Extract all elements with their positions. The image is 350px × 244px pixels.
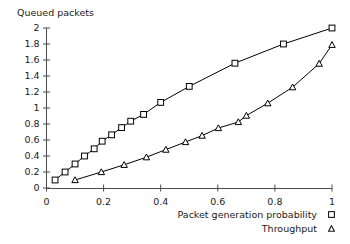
data-point-square <box>141 112 147 118</box>
series-square <box>52 25 335 183</box>
y-tick-label: 2 <box>33 22 39 33</box>
chart-legend: Packet generation probability Throughput <box>0 207 350 235</box>
x-tick-label: 0 <box>43 196 49 207</box>
series-triangle <box>72 42 335 183</box>
data-point-square <box>329 25 335 31</box>
legend-label: Throughput <box>262 223 317 234</box>
square-marker-icon <box>324 211 338 218</box>
x-tick-label: 0.6 <box>210 196 225 207</box>
data-point-square <box>232 60 238 66</box>
series-line <box>55 28 332 180</box>
y-tick-label: 1.8 <box>24 38 39 49</box>
data-point-square <box>158 100 164 106</box>
axes <box>47 28 333 189</box>
legend-item-throughput: Throughput <box>0 221 350 235</box>
legend-item-packet-generation-probability: Packet generation probability <box>0 207 350 221</box>
data-point-square <box>186 84 192 90</box>
x-axis-ticks: 00.20.40.60.81 <box>43 185 335 208</box>
data-point-triangle <box>143 154 149 160</box>
y-tick-label: 1.4 <box>24 70 39 81</box>
data-point-square <box>119 125 125 131</box>
x-tick-label: 0.2 <box>96 196 111 207</box>
data-point-square <box>91 146 97 152</box>
x-tick-label: 0.8 <box>267 196 282 207</box>
y-tick-label: 0.2 <box>24 166 39 177</box>
y-tick-label: 1.6 <box>24 54 39 65</box>
y-tick-label: 0 <box>33 182 39 193</box>
data-point-square <box>281 41 287 47</box>
data-point-square <box>62 169 68 175</box>
x-tick-label: 1 <box>329 196 335 207</box>
data-point-square <box>72 161 78 167</box>
x-tick-label: 0.4 <box>153 196 168 207</box>
legend-label: Packet generation probability <box>178 209 317 220</box>
chart-figure: Queued packets 00.20.40.60.811.21.41.61.… <box>0 0 350 244</box>
data-point-triangle <box>163 146 169 152</box>
data-point-square <box>82 153 88 159</box>
data-point-square <box>128 118 134 124</box>
data-point-triangle <box>316 60 322 66</box>
series-line <box>75 45 332 180</box>
data-point-square <box>109 132 115 138</box>
data-point-triangle <box>182 139 188 145</box>
data-point-triangle <box>199 132 205 138</box>
data-point-square <box>99 138 105 144</box>
y-tick-label: 1.2 <box>24 86 39 97</box>
data-point-triangle <box>243 112 249 118</box>
data-point-square <box>52 177 58 183</box>
data-point-triangle <box>329 42 335 48</box>
data-series-layer <box>52 25 335 183</box>
data-point-triangle <box>265 100 271 106</box>
y-tick-label: 0.6 <box>24 134 39 145</box>
y-tick-label: 0.8 <box>24 118 39 129</box>
y-tick-label: 1 <box>33 102 39 113</box>
y-tick-label: 0.4 <box>24 150 39 161</box>
triangle-marker-icon <box>324 225 338 232</box>
